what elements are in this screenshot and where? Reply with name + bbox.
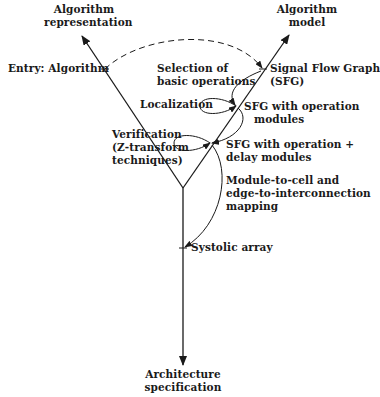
- sfg-op-line2: modules: [244, 113, 359, 126]
- mapping-line2: edge-to-interconnection: [226, 187, 371, 200]
- architecture-line2: specification: [140, 381, 226, 394]
- algorithm-representation-label: Algorithm representation: [44, 3, 124, 29]
- mapping-line3: mapping: [226, 200, 371, 213]
- systolic-array-label: Systolic array: [191, 241, 273, 254]
- selection-label: Selection of basic operations: [157, 62, 255, 88]
- sfg-label: Signal Flow Graph (SFG): [270, 62, 380, 88]
- mapping-label: Module-to-cell and edge-to-interconnecti…: [226, 174, 371, 213]
- mapping-curve: [185, 145, 222, 247]
- algorithm-model-line2: model: [272, 16, 342, 29]
- verification-label: Verification (Z-transform techniques): [112, 128, 189, 167]
- sfg-op-line1: SFG with operation: [244, 100, 359, 113]
- sfg-delay-modules-label: SFG with operation + delay modules: [226, 138, 354, 164]
- architecture-specification-label: Architecture specification: [140, 368, 226, 394]
- selection-line1: Selection of: [157, 62, 255, 75]
- sfg-delay-line2: delay modules: [226, 151, 354, 164]
- selection-line2: basic operations: [157, 75, 255, 88]
- entry-algorithm-label: Entry: Algorithm: [8, 62, 109, 75]
- algorithm-model-label: Algorithm model: [272, 3, 342, 29]
- localization-label: Localization: [140, 98, 213, 111]
- sfg-op-modules-label: SFG with operation modules: [244, 100, 359, 126]
- algorithm-representation-line2: representation: [44, 16, 124, 29]
- sfg-delay-line1: SFG with operation +: [226, 138, 354, 151]
- verification-line1: Verification: [112, 128, 189, 141]
- sfg-line1: Signal Flow Graph: [270, 62, 380, 75]
- sfg-line2: (SFG): [270, 75, 380, 88]
- algorithm-representation-line1: Algorithm: [44, 3, 124, 16]
- architecture-line1: Architecture: [140, 368, 226, 381]
- verification-line3: techniques): [112, 154, 189, 167]
- mapping-line1: Module-to-cell and: [226, 174, 371, 187]
- verification-line2: (Z-transform: [112, 141, 189, 154]
- algorithm-model-line1: Algorithm: [272, 3, 342, 16]
